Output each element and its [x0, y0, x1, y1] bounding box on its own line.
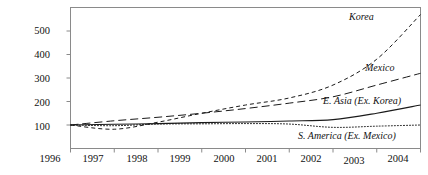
y-tick-label-400: 400 [16, 49, 50, 60]
y-tick-label-200: 200 [16, 97, 50, 108]
series-label-korea: Korea [349, 11, 374, 22]
plot-frame [71, 8, 421, 149]
y-axis-ticks [67, 31, 71, 125]
series-line-e-asia-ex-korea [71, 105, 421, 125]
x-tick-label-2004: 2004 [370, 153, 426, 164]
y-tick-label-500: 500 [16, 25, 50, 36]
series-label-south-america: S. America (Ex. Mexico) [298, 130, 396, 141]
series-label-mexico: Mexico [365, 62, 394, 73]
y-tick-label-100: 100 [16, 121, 50, 132]
y-tick-label-300: 300 [16, 73, 50, 84]
series-label-east-asia: E. Asia (Ex. Korea) [323, 95, 401, 106]
x-axis-ticks [71, 149, 421, 153]
figure: 500 400 300 200 100 1996 1997 1998 1999 … [0, 0, 428, 175]
line-chart-plot [0, 0, 428, 175]
